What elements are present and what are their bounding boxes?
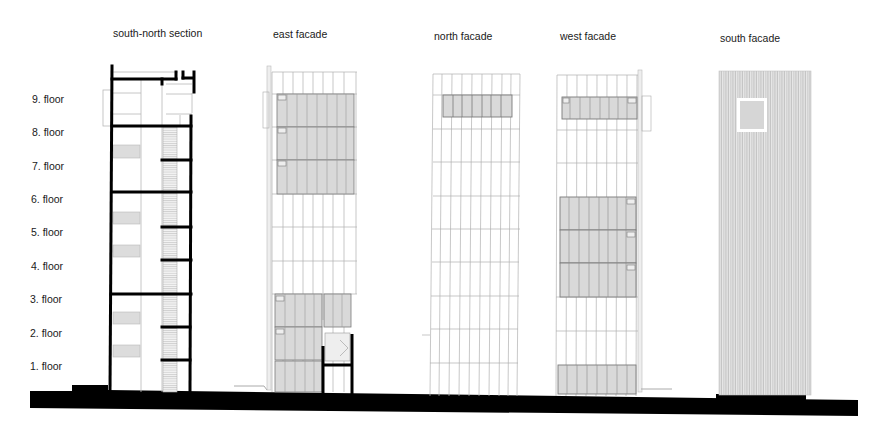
architectural-drawing	[0, 0, 870, 422]
north-facade	[422, 74, 520, 396]
west-facade	[556, 70, 672, 396]
south-facade	[719, 71, 811, 395]
south-north-section	[103, 66, 194, 392]
east-facade	[234, 66, 357, 394]
